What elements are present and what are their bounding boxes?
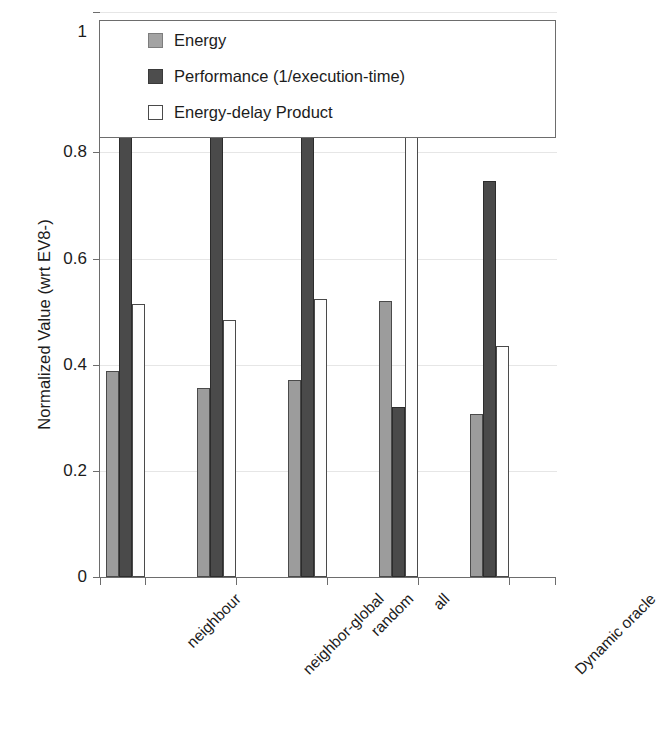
- bar-neighbour-energy: [106, 371, 119, 577]
- x-tick-mark-6: [555, 577, 556, 585]
- legend-swatch-energy-icon: [148, 33, 163, 48]
- legend-item-performance: Performance (1/execution-time): [148, 68, 405, 85]
- y-tick-label-0-4: 0.4: [27, 355, 87, 375]
- bar-neighbor-global-edp: [223, 320, 236, 577]
- y-tick-label-0: 0: [27, 567, 87, 587]
- x-tick-mark-5: [509, 577, 510, 585]
- bar-all-energy: [379, 301, 392, 577]
- bar-all-edp: [405, 110, 418, 578]
- legend-label-energy-delay-product: Energy-delay Product: [174, 104, 333, 121]
- bar-neighbor-global-energy: [197, 388, 210, 578]
- y-tick-mark-0-6: [93, 259, 100, 260]
- y-tick-label-0-6: 0.6: [27, 249, 87, 269]
- x-tick-mark-3: [327, 577, 328, 585]
- legend-label-energy: Energy: [174, 32, 226, 49]
- y-tick-label-0-8: 0.8: [27, 142, 87, 162]
- bar-random-edp: [314, 299, 327, 577]
- legend-swatch-performance-icon: [148, 69, 163, 84]
- x-category-label-all: all: [430, 590, 454, 614]
- x-category-label-dynamic-oracle: Dynamic oracle: [571, 590, 659, 678]
- bar-all-perf: [392, 407, 405, 577]
- x-category-label-neighbour: neighbour: [183, 590, 244, 651]
- x-tick-mark-2: [236, 577, 237, 585]
- bar-random-perf: [301, 76, 314, 577]
- gridline-0-8: [100, 152, 557, 153]
- y-tick-mark-1: [93, 12, 100, 13]
- y-tick-label-1: 1: [27, 22, 87, 42]
- bar-neighbour-edp: [132, 304, 145, 577]
- x-tick-mark-0: [100, 577, 101, 585]
- y-tick-mark-0-2: [93, 471, 100, 472]
- bar-dynamic-oracle-energy: [470, 414, 483, 577]
- x-tick-mark-4: [418, 577, 419, 585]
- bar-random-energy: [288, 380, 301, 578]
- legend-item-energy-delay-product: Energy-delay Product: [148, 104, 333, 121]
- x-tick-mark-1: [145, 577, 146, 585]
- bar-dynamic-oracle-edp: [496, 346, 509, 577]
- y-tick-label-0-2: 0.2: [27, 461, 87, 481]
- chart-legend: Energy Performance (1/execution-time) En…: [99, 20, 556, 138]
- y-tick-mark-0-8: [93, 152, 100, 153]
- y-tick-mark-0: [93, 577, 100, 578]
- legend-swatch-energy-delay-product-icon: [148, 105, 163, 120]
- bar-dynamic-oracle-perf: [483, 181, 496, 577]
- gridline-1: [100, 12, 557, 13]
- legend-label-performance: Performance (1/execution-time): [174, 68, 405, 85]
- y-tick-mark-0-4: [93, 365, 100, 366]
- legend-item-energy: Energy: [148, 32, 226, 49]
